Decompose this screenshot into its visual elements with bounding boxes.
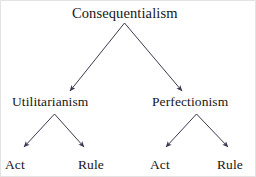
edge-root-to-utilitarianism xyxy=(70,23,125,91)
node-utilitarian-rule: Rule xyxy=(78,158,104,172)
node-perfectionism: Perfectionism xyxy=(152,95,228,109)
edge-perfectionism-to-rule xyxy=(197,114,229,147)
node-perfectionist-rule: Rule xyxy=(217,158,243,172)
consequentialism-tree-diagram: Consequentialism Utilitarianism Perfecti… xyxy=(0,0,256,177)
edge-utilitarianism-to-rule xyxy=(55,114,85,147)
node-consequentialism: Consequentialism xyxy=(72,6,178,21)
edge-root-to-perfectionism xyxy=(125,23,183,91)
edge-utilitarianism-to-act xyxy=(24,114,55,147)
node-utilitarian-act: Act xyxy=(5,158,25,172)
node-perfectionist-act: Act xyxy=(150,158,170,172)
node-utilitarianism: Utilitarianism xyxy=(12,95,88,109)
tree-edges-svg xyxy=(1,1,256,177)
edge-perfectionism-to-act xyxy=(166,114,197,147)
